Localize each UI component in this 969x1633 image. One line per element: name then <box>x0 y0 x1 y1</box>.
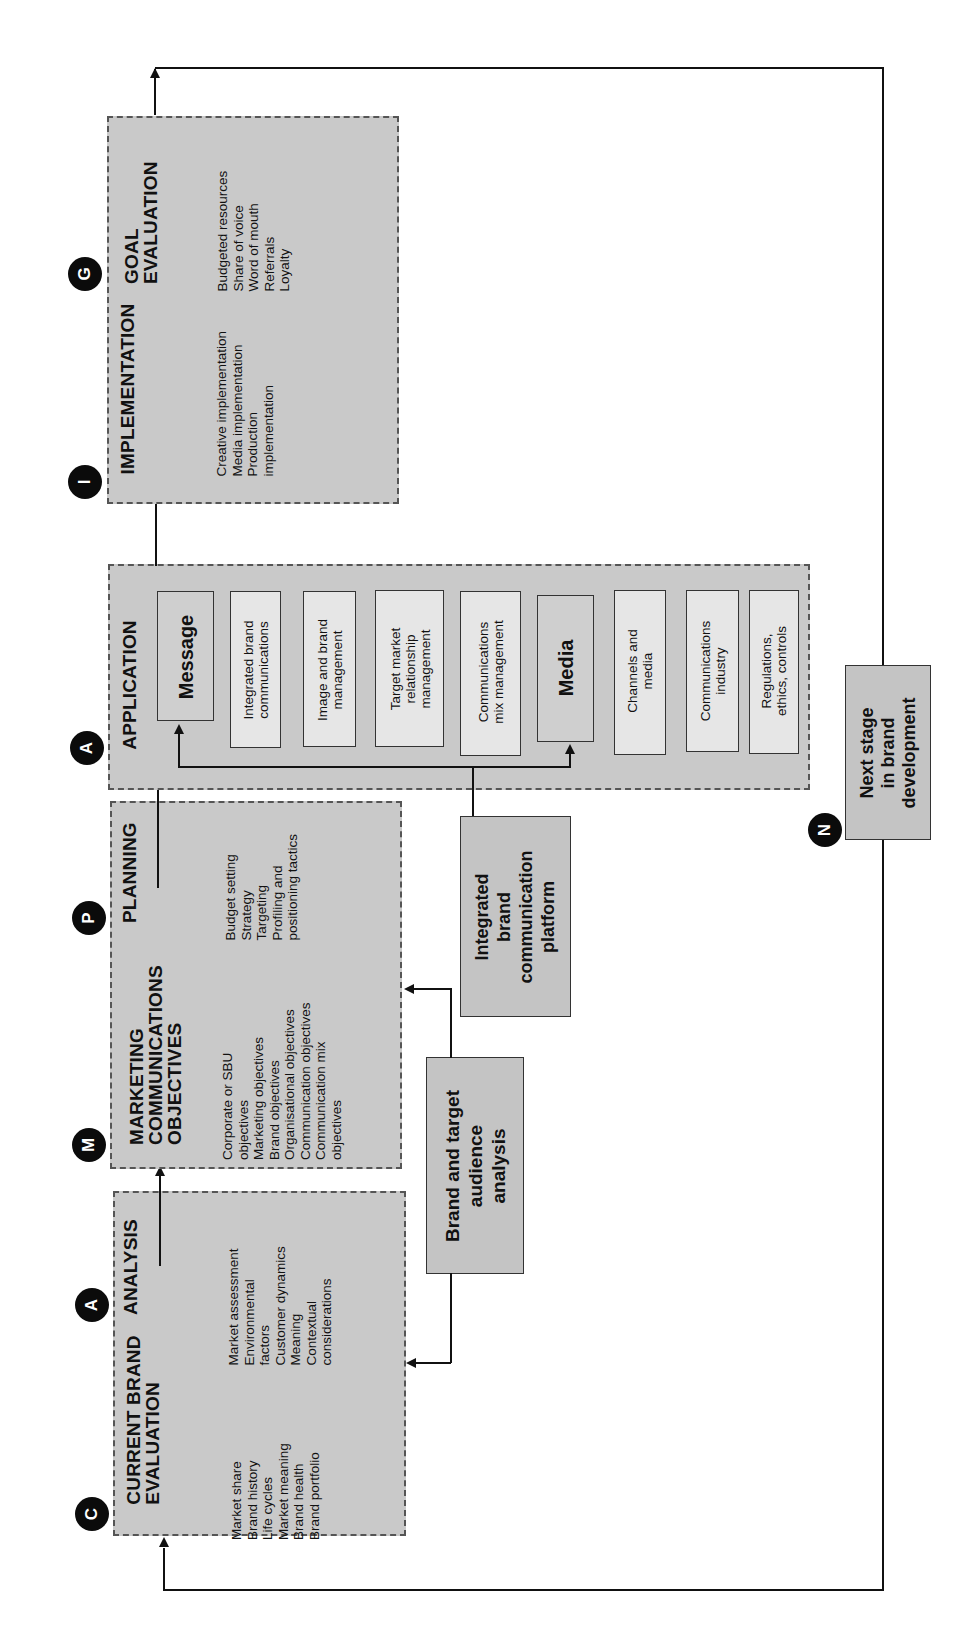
list-goal-evaluation: Budgeted resources Share of voice Word o… <box>215 147 293 292</box>
list-implementation: Creative implementation Media implementa… <box>214 312 276 477</box>
connector-ibcp-horizontal <box>178 766 571 768</box>
heading-current-brand-evaluation: CURRENT BRAND EVALUATION <box>124 1335 162 1504</box>
arrow-to-objectives <box>404 984 414 994</box>
connector-to-message <box>178 733 180 767</box>
arrow-to-media <box>565 744 575 754</box>
marker-a-application: A <box>70 731 104 765</box>
box-brand-target-audience-analysis: Brand and target audience analysis <box>426 1057 524 1274</box>
box-communications-industry: Communications industry <box>686 590 739 752</box>
heading-implementation: IMPLEMENTATION <box>118 304 137 475</box>
box-integrated-brand-communication-platform: Integrated brand communication platform <box>460 816 571 1017</box>
box-image-brand-management: Image and brand management <box>303 591 356 747</box>
heading-analysis: ANALYSIS <box>121 1205 140 1315</box>
connector-brand-target-obj-h <box>412 988 451 990</box>
connector-brand-target-to-objectives <box>450 988 452 1058</box>
loop-bottom-line <box>163 1589 884 1591</box>
list-planning: Budget setting Strategy Targeting Profil… <box>223 806 301 941</box>
connector-ibcp-stem <box>472 766 474 816</box>
connector-brand-target-ana-h <box>414 1362 451 1364</box>
list-analysis: Market assessment Environmental factors … <box>226 1221 335 1366</box>
loop-left-line <box>163 1548 165 1591</box>
marker-m: M <box>72 1128 106 1162</box>
marker-n: N <box>808 813 842 847</box>
box-message: Message <box>157 591 214 721</box>
list-current-brand-evaluation: Market share Brand history Life cycles M… <box>229 1370 322 1540</box>
marker-g: G <box>68 257 102 291</box>
heading-planning: PLANNING <box>120 813 139 923</box>
connector-brand-target-to-analysis <box>450 1273 452 1363</box>
list-marketing-communications-objectives: Corporate or SBU objectives Marketing ob… <box>220 980 344 1160</box>
box-next-stage-brand-development: Next stage in brand development <box>845 665 931 840</box>
arrow-shaft-analysis-to-objectives <box>159 1170 161 1266</box>
arrow-to-message <box>174 724 184 734</box>
marker-a-analysis: A <box>75 1288 109 1322</box>
box-channels-media: Channels and media <box>614 590 666 755</box>
box-media: Media <box>537 595 594 742</box>
marker-c: C <box>75 1497 109 1531</box>
arrow-into-current-brand <box>159 1537 169 1547</box>
arrow-to-analysis <box>406 1358 416 1368</box>
arrow-goal-to-loop <box>150 68 160 78</box>
heading-marketing-communications-objectives: MARKETING COMMUNICATIONS OBJECTIVES <box>127 965 184 1145</box>
loop-top-line <box>155 67 884 69</box>
heading-goal-evaluation: GOAL EVALUATION <box>122 144 160 284</box>
marker-p: P <box>72 901 106 935</box>
marker-i: I <box>68 465 102 499</box>
box-target-market-relationship: Target market relationship management <box>375 590 444 747</box>
connector-to-media <box>569 752 571 767</box>
box-regulations-ethics: Regulations, ethics, controls <box>749 590 799 754</box>
box-integrated-brand-communications: Integrated brand communications <box>230 591 281 748</box>
box-communications-mix-management: Communications mix management <box>460 591 521 756</box>
heading-application: APPLICATION <box>120 620 139 750</box>
